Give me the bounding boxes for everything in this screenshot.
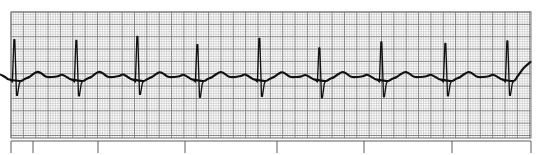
ecg-canvas — [0, 0, 541, 155]
ecg-strip-container — [0, 0, 541, 155]
